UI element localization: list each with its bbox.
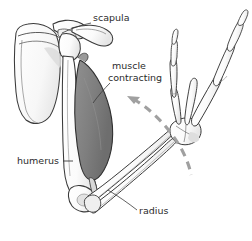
label-radius: radius — [139, 205, 168, 216]
leader-radius — [108, 190, 137, 210]
muscle-belly — [75, 60, 113, 180]
label-muscle-contracting-line1: muscle — [112, 60, 146, 71]
olecranon — [84, 195, 100, 212]
label-scapula: scapula — [93, 12, 130, 23]
phalanges-group — [170, 10, 248, 97]
phalanx-a3 — [238, 10, 248, 26]
label-muscle-contracting-line2: contracting — [108, 72, 162, 83]
label-humerus: humerus — [17, 155, 59, 166]
diagram-canvas: scapula muscle contracting humerus radiu… — [0, 0, 252, 241]
anatomy-diagram: scapula muscle contracting humerus radiu… — [0, 0, 252, 241]
